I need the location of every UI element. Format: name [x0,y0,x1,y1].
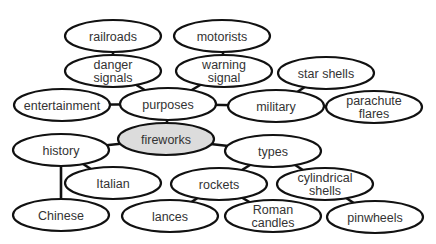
node-label: danger [94,58,133,72]
node-parachute: parachuteflares [326,91,422,123]
node-rockets: rockets [171,168,267,200]
node-label: shells [309,184,341,198]
concept-map: railroadsmotoristsdangersignalswarningsi… [0,0,436,244]
node-starshells: star shells [278,57,374,89]
node-military: military [228,90,324,122]
node-label: warning [201,58,246,72]
node-label: parachute [346,94,402,108]
node-railroads: railroads [65,20,161,52]
node-label: motorists [197,30,248,44]
node-motorists: motorists [174,20,270,52]
node-label: signals [94,71,133,85]
node-label: fireworks [141,133,191,147]
node-pinwheels: pinwheels [327,201,423,233]
node-purposes: purposes [120,88,216,120]
node-types: types [225,135,321,167]
node-label: star shells [298,67,354,81]
node-label: Italian [96,177,129,191]
node-cylindrical: cylindricalshells [277,168,373,200]
node-italian: Italian [65,167,161,199]
node-label: Roman [253,203,293,217]
node-label: cylindrical [298,171,353,185]
node-label: railroads [89,30,137,44]
node-lances: lances [122,200,218,232]
node-label: Chinese [38,209,84,223]
node-label: military [256,100,296,114]
node-label: pinwheels [347,211,403,225]
node-label: history [43,144,81,158]
node-label: lances [152,210,188,224]
node-chinese: Chinese [13,199,109,231]
node-label: purposes [142,98,193,112]
node-history: history [13,134,109,166]
nodes: railroadsmotoristsdangersignalswarningsi… [13,20,423,233]
node-label: flares [359,107,390,121]
node-label: entertainment [24,99,101,113]
node-label: types [258,145,288,159]
node-warning: warningsignal [176,55,272,87]
node-label: rockets [199,178,239,192]
node-label: signal [208,71,241,85]
node-label: candles [251,216,294,230]
node-roman: Romancandles [225,200,321,232]
node-fireworks: fireworks [118,123,214,155]
node-entertainment: entertainment [14,89,110,121]
node-danger: dangersignals [65,55,161,87]
